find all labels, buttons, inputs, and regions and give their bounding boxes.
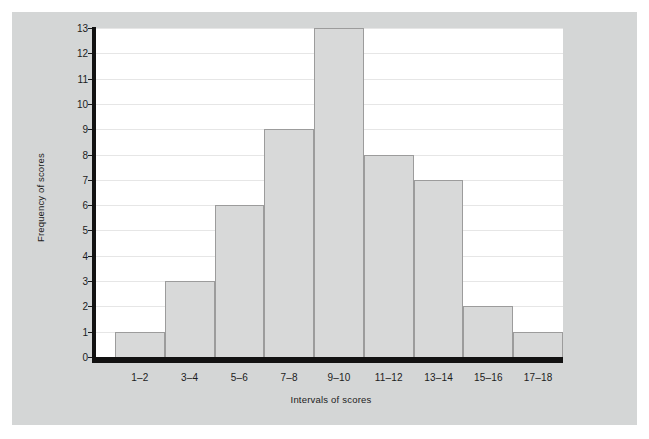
x-axis-tick-label: 15–16 [474, 372, 503, 383]
x-axis-tick-label: 9–10 [327, 372, 350, 383]
histogram-bar [463, 306, 513, 357]
page-root: Frequency of scores 012345678910111213 1… [0, 0, 649, 439]
bar-series [96, 28, 563, 357]
x-axis-tick-labels: 1–23–45–67–89–1011–1213–1415–1617–18 [96, 372, 563, 390]
histogram-figure: Frequency of scores 012345678910111213 1… [12, 12, 637, 425]
x-axis-tick-label: 1–2 [131, 372, 148, 383]
y-axis-tick-label: 4 [58, 250, 88, 261]
x-axis-tick-label: 5–6 [231, 372, 248, 383]
y-axis-tick-label: 3 [58, 276, 88, 287]
histogram-bar [414, 180, 464, 357]
x-axis-tick-label: 7–8 [281, 372, 298, 383]
y-axis-tick-label: 0 [58, 352, 88, 363]
y-axis-tick-label: 12 [58, 48, 88, 59]
x-axis-tick-label: 3–4 [181, 372, 198, 383]
y-axis-tick-label: 9 [58, 124, 88, 135]
histogram-bar [115, 332, 165, 357]
x-axis-tick-label: 11–12 [375, 372, 403, 383]
y-axis-tick-labels: 012345678910111213 [56, 28, 88, 357]
figure-panel: Frequency of scores 012345678910111213 1… [12, 12, 637, 425]
x-axis-tick-label: 17–18 [524, 372, 553, 383]
y-axis-tick-label: 5 [58, 225, 88, 236]
y-axis-tick-label: 1 [58, 326, 88, 337]
plot-area [96, 28, 563, 357]
y-axis-tick-label: 13 [58, 23, 88, 34]
y-axis-tick-label: 6 [58, 200, 88, 211]
y-axis-tick-label: 2 [58, 301, 88, 312]
histogram-bar [364, 155, 414, 357]
histogram-bar [165, 281, 215, 357]
y-axis-tick-label: 11 [58, 73, 88, 84]
histogram-bar [513, 332, 563, 357]
histogram-bar [314, 28, 364, 357]
x-axis-line [92, 357, 563, 363]
x-axis-title: Intervals of scores [96, 394, 566, 405]
histogram-bar [264, 129, 314, 357]
histogram-bar [215, 205, 265, 357]
y-axis-tick-label: 10 [58, 98, 88, 109]
y-axis-line [92, 27, 96, 363]
y-axis-tick-label: 8 [58, 149, 88, 160]
y-axis-title: Frequency of scores [35, 128, 46, 268]
x-axis-tick-label: 13–14 [424, 372, 453, 383]
y-axis-tick-label: 7 [58, 174, 88, 185]
